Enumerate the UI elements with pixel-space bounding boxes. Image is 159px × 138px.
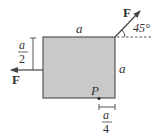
bottom-dim-numerator: a bbox=[103, 108, 109, 122]
point-p-label: P bbox=[90, 83, 99, 98]
left-dim-denominator: 2 bbox=[19, 52, 25, 66]
force-label-left: F bbox=[12, 72, 20, 87]
point-p-dot bbox=[98, 97, 101, 100]
top-side-label: a bbox=[76, 21, 83, 36]
force-diagram: a a F 45° F a 2 P a 4 bbox=[0, 0, 159, 138]
right-side-label: a bbox=[119, 61, 126, 76]
angle-label: 45° bbox=[133, 21, 150, 35]
square-body bbox=[43, 37, 115, 98]
left-dim-numerator: a bbox=[19, 38, 25, 52]
angle-arc bbox=[122, 30, 125, 37]
bottom-dim-denominator: 4 bbox=[103, 122, 109, 136]
force-label-top-right: F bbox=[123, 5, 131, 20]
